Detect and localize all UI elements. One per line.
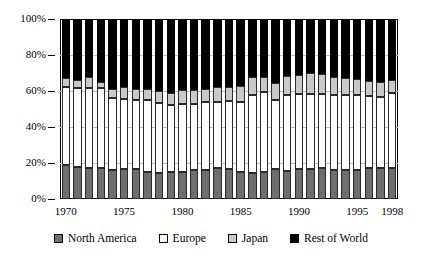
bar-segment — [132, 89, 140, 100]
bar-segment — [236, 19, 244, 86]
legend-label: Rest of World — [304, 232, 368, 244]
bar-segment — [295, 169, 303, 199]
bar-column — [353, 19, 361, 199]
plot-area — [60, 19, 398, 199]
bar-column — [190, 19, 198, 199]
bar-segment — [132, 100, 140, 169]
bar-segment — [330, 77, 338, 95]
bar-column — [283, 19, 291, 199]
bar-segment — [330, 170, 338, 199]
bar-segment — [353, 170, 361, 199]
bar-column — [73, 19, 81, 199]
bar-segment — [318, 168, 326, 199]
bar-column — [132, 19, 140, 199]
bar-segment — [73, 80, 81, 88]
bar-segment — [178, 90, 186, 104]
x-axis-tick-label: 1970 — [55, 205, 77, 217]
bar-segment — [85, 88, 93, 167]
bar-column — [108, 19, 116, 199]
legend-swatch-icon — [290, 234, 299, 243]
legend-item: North America — [54, 232, 137, 244]
bar-segment — [365, 81, 373, 96]
bar-segment — [167, 19, 175, 93]
bar-segment — [62, 78, 70, 87]
bar-segment — [143, 172, 151, 199]
bar-segment — [388, 80, 396, 93]
bar-segment — [85, 19, 93, 77]
bar-segment — [85, 77, 93, 89]
bar-segment — [143, 19, 151, 89]
x-axis-tick-label: 1995 — [346, 205, 368, 217]
bar-column — [341, 19, 349, 199]
bar-column — [201, 19, 209, 199]
bar-column — [248, 19, 256, 199]
bar-segment — [318, 19, 326, 74]
bar-segment — [73, 19, 81, 80]
x-axis-tick-label: 1975 — [113, 205, 135, 217]
x-axis-tick-label: 1990 — [288, 205, 310, 217]
bar-segment — [295, 19, 303, 75]
bar-segment — [62, 87, 70, 165]
bar-segment — [120, 19, 128, 87]
y-axis-tick-mark — [48, 55, 55, 56]
bar-segment — [97, 88, 105, 168]
bar-segment — [108, 170, 116, 199]
bar-segment — [236, 102, 244, 172]
legend-item: Rest of World — [290, 232, 368, 244]
bar-column — [213, 19, 221, 199]
bar-column — [62, 19, 70, 199]
bar-segment — [376, 19, 384, 82]
bar-segment — [376, 97, 384, 167]
bar-segment — [353, 79, 361, 94]
bar-segment — [143, 89, 151, 100]
bar-column — [143, 19, 151, 199]
bar-segment — [120, 87, 128, 99]
bar-segment — [248, 95, 256, 173]
bar-segment — [155, 173, 163, 199]
bar-segment — [248, 19, 256, 77]
bar-column — [260, 19, 268, 199]
bar-column — [225, 19, 233, 199]
y-axis-tick-mark — [48, 199, 55, 200]
bar-segment — [306, 73, 314, 94]
bar-segment — [388, 168, 396, 200]
y-axis-tick-label: 60% — [26, 85, 46, 96]
bar-segment — [143, 100, 151, 172]
bar-segment — [295, 94, 303, 170]
bar-segment — [341, 78, 349, 95]
stacked-bar-chart: 0%20%40%60%80%100% 197019751980198519901… — [0, 0, 422, 255]
bar-column — [97, 19, 105, 199]
bar-segment — [248, 77, 256, 95]
bar-column — [271, 19, 279, 199]
bar-segment — [376, 82, 384, 97]
legend-label: North America — [68, 232, 137, 244]
bar-segment — [341, 95, 349, 171]
bar-segment — [62, 165, 70, 199]
bar-column — [365, 19, 373, 199]
bar-segment — [260, 77, 268, 92]
bar-segment — [248, 173, 256, 199]
bar-column — [85, 19, 93, 199]
y-axis-tick-mark — [48, 127, 55, 128]
bar-segment — [306, 19, 314, 73]
bar-segment — [225, 19, 233, 87]
bar-segment — [341, 19, 349, 78]
bar-series-layer — [60, 19, 398, 199]
bar-segment — [213, 87, 221, 101]
bar-segment — [108, 19, 116, 89]
bar-segment — [260, 19, 268, 77]
x-axis: 1970197519801985199019951998 — [60, 199, 398, 221]
bar-segment — [213, 102, 221, 169]
bar-column — [388, 19, 396, 199]
bar-segment — [365, 19, 373, 81]
bar-column — [295, 19, 303, 199]
bar-segment — [132, 19, 140, 89]
bar-column — [155, 19, 163, 199]
bar-segment — [236, 86, 244, 102]
bar-column — [236, 19, 244, 199]
x-axis-tick-label: 1998 — [381, 205, 403, 217]
bar-segment — [178, 104, 186, 172]
bar-segment — [271, 169, 279, 199]
bar-segment — [341, 170, 349, 199]
bar-segment — [353, 19, 361, 79]
